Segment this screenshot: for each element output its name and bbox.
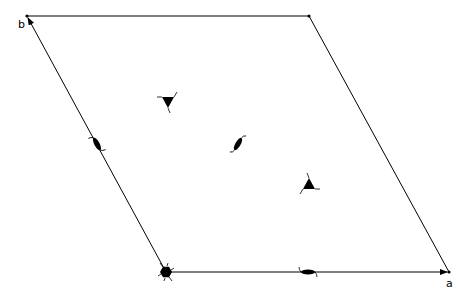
cell-edge-right	[309, 16, 449, 272]
two-fold-axis-center-icon	[230, 133, 246, 155]
corner-dot-top-right	[307, 14, 310, 17]
unit-cell-diagram: a b	[0, 0, 473, 296]
corner-dot-a	[447, 270, 450, 273]
three-fold-axis-up-icon	[300, 173, 320, 194]
axis-b-label: b	[18, 18, 25, 31]
axis-a-label: a	[446, 277, 453, 290]
two-fold-axis-b-edge-icon	[88, 134, 105, 155]
three-fold-axis-down-icon	[157, 92, 177, 113]
two-fold-axis-a-edge-icon	[299, 267, 317, 277]
corner-dot-b	[25, 14, 28, 17]
six-fold-axis-icon	[158, 263, 174, 281]
